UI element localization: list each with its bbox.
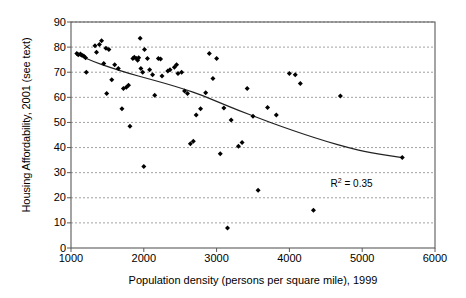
data-point [210, 76, 215, 81]
data-point [338, 94, 343, 99]
data-point [94, 50, 99, 55]
data-point [127, 124, 132, 129]
data-point [221, 105, 226, 110]
data-point-markers [74, 36, 404, 231]
data-point [138, 36, 143, 41]
data-point [141, 164, 146, 169]
trend-line [78, 55, 403, 158]
x-tick-label: 2000 [114, 253, 174, 264]
x-tick-label: 1000 [41, 253, 101, 264]
plot-border [71, 22, 435, 248]
y-axis-tick-marks [67, 22, 71, 248]
x-tick-label: 3000 [187, 253, 247, 264]
x-tick-label: 4000 [259, 253, 319, 264]
data-point [311, 208, 316, 213]
plot-frame [71, 22, 435, 248]
x-axis-tick-marks [71, 248, 435, 252]
x-tick-label: 5000 [332, 253, 392, 264]
data-point [104, 91, 109, 96]
data-point [251, 114, 256, 119]
data-point [160, 73, 165, 78]
r-squared-value: = 0.35 [342, 178, 373, 189]
data-point [236, 144, 241, 149]
gridlines [71, 22, 435, 223]
data-point [207, 51, 212, 56]
data-point [109, 77, 114, 82]
data-point [274, 112, 279, 117]
data-point [194, 112, 199, 117]
data-point [229, 117, 234, 122]
data-point [93, 43, 98, 48]
data-point [218, 151, 223, 156]
scatter-chart-figure: Housing Affordability, 2001 (see text) 0… [0, 0, 466, 298]
data-point [145, 56, 150, 61]
data-point [119, 106, 124, 111]
data-point [265, 105, 270, 110]
fitted-trend-curve [78, 55, 403, 158]
data-point [240, 140, 245, 145]
data-point [198, 106, 203, 111]
data-point [84, 70, 89, 75]
data-point [293, 72, 298, 77]
data-point [147, 67, 152, 72]
x-axis-tick-labels: 100020003000400050006000 [0, 253, 466, 267]
x-tick-label: 6000 [405, 253, 465, 264]
data-point [214, 56, 219, 61]
data-point [245, 86, 250, 91]
data-point [400, 155, 405, 160]
data-point [112, 62, 117, 67]
x-axis-title: Population density (persons per square m… [71, 274, 435, 286]
data-point [225, 225, 230, 230]
r-squared-annotation: R2 = 0.35 [331, 177, 373, 189]
data-point [256, 188, 261, 193]
r-squared-prefix: R [331, 178, 338, 189]
data-point [287, 71, 292, 76]
data-point [298, 81, 303, 86]
data-point [150, 72, 155, 77]
data-point [142, 47, 147, 52]
data-point [203, 90, 208, 95]
